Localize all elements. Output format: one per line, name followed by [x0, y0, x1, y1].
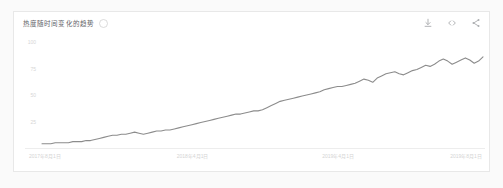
embed-icon[interactable]	[447, 18, 457, 28]
chart-plot-area[interactable]: 1007550252017年8月1日2018年4月1日2019年4月1日2019…	[14, 38, 491, 173]
y-axis-tick-label: 25	[20, 119, 36, 125]
x-axis-tick-label: 2017年8月1日	[29, 153, 61, 159]
axis-baseline	[25, 148, 485, 149]
y-axis-tick-label: 50	[20, 92, 36, 98]
y-axis-tick-label: 75	[20, 66, 36, 72]
header-actions	[423, 18, 481, 28]
x-axis-tick-label: 2019年4月1日	[322, 153, 354, 159]
card-header: 热度随时间变化的趋势	[14, 12, 489, 38]
x-axis-tick-label: 2018年4月1日	[177, 153, 209, 159]
interest-over-time-card: 热度随时间变化的趋势	[13, 11, 490, 172]
page-title: 热度随时间变化的趋势	[23, 19, 94, 28]
y-axis-tick-label: 100	[20, 39, 36, 45]
info-icon[interactable]	[99, 19, 108, 28]
title-group: 热度随时间变化的趋势	[23, 19, 108, 28]
trend-line-path	[42, 57, 483, 144]
x-axis-tick-label: 2019年8月1日	[450, 153, 482, 159]
share-icon[interactable]	[471, 18, 481, 28]
trend-line-chart[interactable]	[14, 38, 491, 173]
download-icon[interactable]	[423, 18, 433, 28]
